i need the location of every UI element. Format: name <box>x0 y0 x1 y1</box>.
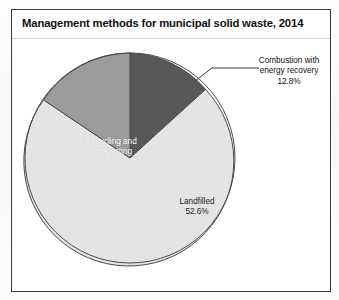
slice-label-combustion-line1: Combustion with <box>249 56 329 66</box>
pie-chart: Recycling and composting 34.6% Landfille… <box>11 9 331 292</box>
slice-label-landfilled: Landfilled 52.6% <box>154 197 240 217</box>
slice-label-combustion: Combustion with energy recovery 12.8% <box>249 56 329 87</box>
slice-label-recycling-line2: composting <box>62 147 160 157</box>
slice-label-combustion-line2: energy recovery <box>249 66 329 76</box>
slice-label-recycling: Recycling and composting 34.6% <box>62 137 160 168</box>
pie-chart-svg <box>11 9 331 292</box>
slice-label-combustion-value: 12.8% <box>249 77 329 87</box>
page-root: Management methods for municipal solid w… <box>0 0 339 300</box>
slice-label-landfilled-value: 52.6% <box>154 207 240 217</box>
slice-label-recycling-line1: Recycling and <box>62 137 160 147</box>
slice-label-landfilled-line1: Landfilled <box>154 197 240 207</box>
slice-label-recycling-value: 34.6% <box>62 157 160 167</box>
